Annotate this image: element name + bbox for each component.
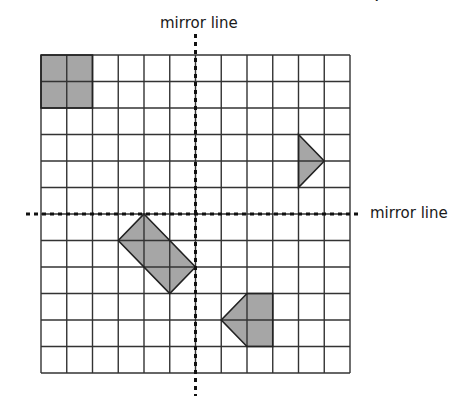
horizontal-mirror-line-label: mirror line (370, 204, 448, 222)
shapes-layer (41, 55, 324, 347)
vertical-mirror-line-label: mirror line (160, 14, 238, 32)
shape-tilted-rectangle (118, 214, 195, 294)
